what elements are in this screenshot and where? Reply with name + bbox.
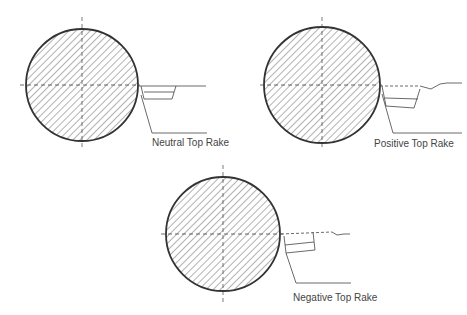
rake-angle-diagram: Neutral Top Rake Positive Top Rake Negat… xyxy=(0,0,467,315)
cutting-tool xyxy=(380,83,462,133)
cutting-tool xyxy=(281,232,351,283)
label-positive-top-rake: Positive Top Rake xyxy=(374,138,454,149)
cutting-tool xyxy=(138,86,207,133)
label-negative-top-rake: Negative Top Rake xyxy=(293,292,378,303)
label-neutral-top-rake: Neutral Top Rake xyxy=(152,137,230,148)
panel-negative-top-rake: Negative Top Rake xyxy=(161,165,378,303)
panel-positive-top-rake: Positive Top Rake xyxy=(260,17,462,150)
panel-neutral-top-rake: Neutral Top Rake xyxy=(20,17,230,150)
